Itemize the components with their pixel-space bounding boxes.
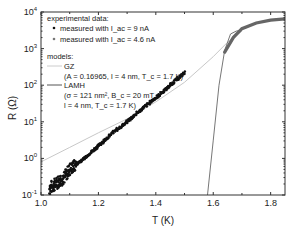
data-point-9na (183, 73, 185, 75)
y-tick-label: 103 (24, 43, 38, 54)
y-tick-label: 102 (24, 79, 38, 90)
data-point-9na (53, 189, 55, 191)
data-point-9na (66, 177, 68, 179)
legend-marker-9na (53, 27, 56, 30)
series-4p6na (225, 19, 285, 52)
legend-models-header: models: (47, 52, 73, 61)
legend: experimental data: measured with I_ac = … (47, 14, 183, 110)
legend-lamh-params1: (σ = 121 nm², B_c = 20 mT, (64, 91, 155, 100)
x-tick-label: 1.2 (92, 198, 105, 208)
data-point-9na (73, 167, 75, 169)
x-tick-label: 1.8 (264, 198, 277, 208)
data-point-9na (74, 169, 76, 171)
legend-experimental-header: experimental data: (47, 14, 109, 23)
legend-lamh-name: LAMH (64, 81, 85, 90)
x-tick-label: 1.4 (150, 198, 163, 208)
x-tick-label: 1.6 (207, 198, 220, 208)
y-tick-label: 101 (24, 116, 38, 127)
legend-lamh-params2: l = 4 nm, T_c = 1.7 K) (64, 101, 136, 110)
data-point-9na (69, 174, 71, 176)
x-axis-label: T (K) (152, 215, 174, 226)
chart: 1.01.21.41.61.810-1100101102103104 R (Ω)… (0, 0, 296, 229)
data-point-9na (184, 70, 186, 72)
y-axis-label: R (Ω) (7, 96, 18, 120)
legend-gz-params: (A = 0.16965, l = 4 nm, T_c = 1.7 K) (64, 72, 183, 81)
data-point-9na (63, 181, 65, 183)
series-lamh-line (208, 30, 242, 195)
y-tick-label: 100 (24, 152, 38, 163)
data-point-9na (173, 82, 175, 84)
legend-marker-4p6na (53, 38, 56, 41)
y-tick-label: 104 (24, 6, 38, 17)
x-tick-label: 1.0 (35, 198, 48, 208)
data-point-9na (146, 105, 148, 107)
data-point-9na (50, 180, 52, 182)
legend-exp2: measured with I_ac = 4.6 nA (60, 35, 155, 44)
legend-gz-name: GZ (64, 62, 75, 71)
legend-exp1: measured with I_ac = 9 nA (60, 24, 149, 33)
